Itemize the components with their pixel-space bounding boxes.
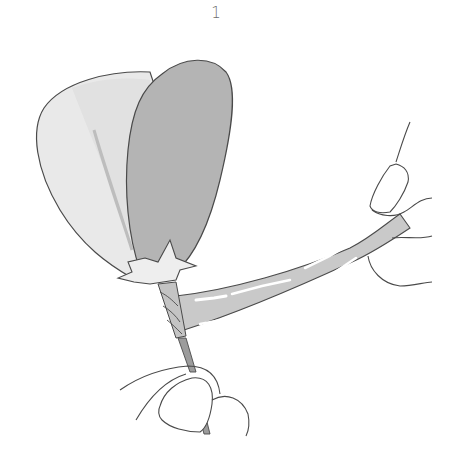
flower-wrapping-illustration bbox=[0, 0, 470, 458]
left-hand bbox=[120, 366, 249, 436]
right-hand bbox=[368, 122, 432, 286]
